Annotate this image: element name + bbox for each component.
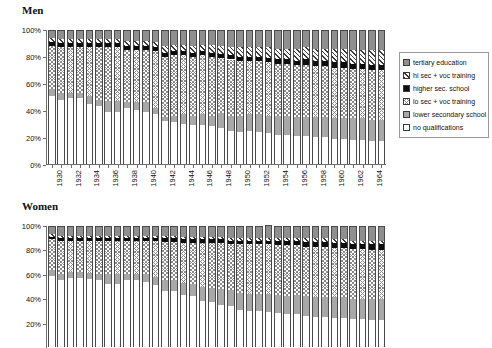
bar-segment-hisecvoc <box>340 239 348 243</box>
x-tick-mark <box>174 165 175 168</box>
bar-segment-hisecvoc <box>208 45 216 53</box>
bar-segment-none <box>368 141 376 164</box>
bar-1964 <box>368 226 376 347</box>
bar-segment-losecvoc <box>67 47 75 93</box>
bar-1937 <box>114 30 122 164</box>
x-tick-mark <box>334 165 335 168</box>
bar-1935 <box>95 226 103 347</box>
bar-segment-highsec <box>208 239 216 243</box>
x-tick-mark <box>202 165 203 168</box>
bar-segment-lowsec <box>67 93 75 98</box>
legend-item-lowsec[interactable]: lower secondary school <box>403 108 485 121</box>
x-tick-mark <box>372 165 373 168</box>
bar-segment-highsec <box>283 59 291 63</box>
x-tick-mark <box>259 165 260 168</box>
bar-segment-hisecvoc <box>76 236 84 238</box>
bar-segment-highsec <box>170 238 178 242</box>
bar-segment-losecvoc <box>293 245 301 295</box>
bar-segment-none <box>208 126 216 164</box>
bar-segment-losecvoc <box>255 61 263 115</box>
x-tick-mark <box>99 165 100 168</box>
bar-segment-hisecvoc <box>152 236 160 238</box>
bar-segment-losecvoc <box>95 47 103 99</box>
bar-segment-tertiary <box>180 30 188 45</box>
bar-segment-lowsec <box>180 114 188 123</box>
bar-segment-tertiary <box>123 226 131 236</box>
bar-segment-hisecvoc <box>265 47 273 58</box>
bar-segment-losecvoc <box>340 248 348 298</box>
legend-label: lower secondary school <box>413 111 486 118</box>
bar-1962 <box>349 226 357 347</box>
bar-segment-tertiary <box>340 226 348 239</box>
legend-label: higher sec. school <box>413 85 469 92</box>
bar-1955 <box>283 30 291 164</box>
bar-segment-lowsec <box>359 118 367 139</box>
legend-label: tertiary education <box>413 59 467 66</box>
bar-1935 <box>95 30 103 164</box>
bar-1952 <box>255 30 263 164</box>
bar-1954 <box>274 226 282 347</box>
bar-segment-losecvoc <box>170 55 178 115</box>
bar-segment-hisecvoc <box>180 45 188 52</box>
y-tick-label: 40% <box>26 295 41 304</box>
bar-segment-lowsec <box>246 114 254 130</box>
bar-segment-losecvoc <box>349 249 357 299</box>
bar-segment-losecvoc <box>133 241 141 275</box>
bar-segment-tertiary <box>302 226 310 238</box>
bar-1942 <box>161 226 169 347</box>
bar-segment-lowsec <box>321 117 329 137</box>
bar-segment-lowsec <box>265 116 273 133</box>
x-tick-mark <box>344 165 345 168</box>
legend-item-losecvoc[interactable]: lo sec + voc training <box>403 95 485 108</box>
x-tick-mark <box>353 165 354 168</box>
bar-segment-tertiary <box>133 30 141 41</box>
bar-segment-highsec <box>199 239 207 243</box>
bar-segment-tertiary <box>312 226 320 238</box>
legend-item-hisecvoc[interactable]: hi sec + voc training <box>403 69 485 82</box>
bar-segment-none <box>236 132 244 164</box>
y-tick-mark <box>43 30 46 31</box>
legend-item-none[interactable]: no qualifications <box>403 121 485 134</box>
bar-segment-tertiary <box>161 30 169 46</box>
bar-segment-none <box>274 135 282 164</box>
bar-segment-highsec <box>312 242 320 247</box>
bar-segment-tertiary <box>274 226 282 238</box>
bar-segment-none <box>283 135 291 164</box>
bar-segment-lowsec <box>95 274 103 280</box>
bar-segment-lowsec <box>340 297 348 318</box>
x-tick-mark <box>137 165 138 168</box>
bar-segment-none <box>48 96 56 164</box>
bar-segment-none <box>57 100 65 164</box>
x-tick-mark <box>89 165 90 168</box>
bar-segment-tertiary <box>67 30 75 39</box>
bar-segment-hisecvoc <box>283 238 291 240</box>
bar-segment-none <box>378 141 386 164</box>
bar-segment-losecvoc <box>180 243 188 283</box>
bar-segment-hisecvoc <box>293 238 301 240</box>
bar-1936 <box>104 226 112 347</box>
bar-segment-tertiary <box>114 226 122 236</box>
bar-segment-losecvoc <box>283 245 291 296</box>
bar-segment-highsec <box>180 239 188 243</box>
bar-segment-none <box>48 276 56 347</box>
bar-segment-none <box>67 98 75 164</box>
bar-segment-none <box>95 106 103 164</box>
bar-segment-tertiary <box>208 226 216 237</box>
bar-segment-hisecvoc <box>349 241 357 245</box>
bar-segment-lowsec <box>265 294 273 312</box>
bar-segment-none <box>114 112 122 164</box>
bar-segment-highsec <box>368 65 376 70</box>
bar-segment-tertiary <box>217 226 225 237</box>
bar-segment-highsec <box>349 244 357 249</box>
bar-segment-hisecvoc <box>274 238 282 240</box>
legend-item-highsec[interactable]: higher sec. school <box>403 82 485 95</box>
bar-segment-lowsec <box>95 100 103 107</box>
bar-1956 <box>293 226 301 347</box>
bar-segment-losecvoc <box>76 47 84 93</box>
bar-segment-hisecvoc <box>142 41 150 46</box>
legend-item-tertiary[interactable]: tertiary education <box>403 56 485 69</box>
bar-segment-highsec <box>189 53 197 57</box>
bar-1946 <box>199 226 207 347</box>
bar-segment-lowsec <box>133 274 141 280</box>
bar-segment-hisecvoc <box>331 239 339 243</box>
